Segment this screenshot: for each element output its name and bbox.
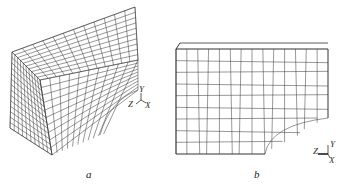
figure-svg: Y Z X Y Z X [0,0,340,188]
axis-x-label-a: X [144,100,151,110]
axis-z-label-a: Z [128,99,134,109]
panel-label-a: a [86,168,92,180]
axis-y-label-b: Y [330,139,336,149]
panel-b-axes: Y Z X [313,139,336,165]
axis-x-label-b: X [328,155,335,165]
panel-a-mesh [10,7,138,155]
axis-y-label-a: Y [139,84,145,94]
panel-label-b: b [254,168,260,180]
panel-b-mesh [176,43,328,154]
